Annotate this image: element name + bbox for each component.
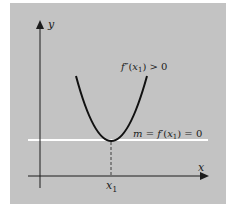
- y-axis-arrow-icon: [36, 20, 44, 29]
- x-axis-label: x: [198, 161, 205, 174]
- second-derivative-annotation: f″(x1) > 0: [120, 61, 167, 74]
- x1-tick-label: x1: [106, 179, 117, 194]
- diagram: y x x1 f″(x1) > 0 m = f′(x1) = 0: [0, 0, 237, 212]
- y-axis-label: y: [47, 18, 55, 31]
